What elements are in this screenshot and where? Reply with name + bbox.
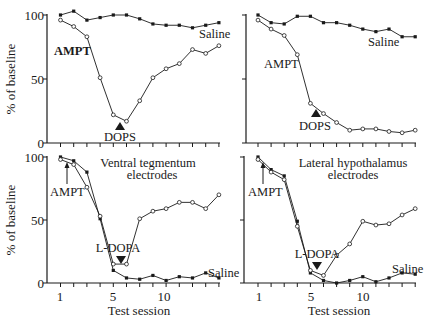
series-top-left-ampt-dops — [59, 18, 221, 123]
data-point-marker — [178, 24, 181, 27]
panel-title-bl-line2: electrodes — [127, 168, 178, 182]
data-point-marker — [98, 76, 102, 80]
label-bl-ldopa: L-DOPA — [96, 241, 141, 255]
figure: % of baseline % of baseline 100 50 0 100… — [0, 0, 428, 319]
data-point-marker — [387, 130, 391, 134]
data-point-marker — [138, 217, 142, 221]
data-point-marker — [191, 200, 195, 204]
data-point-marker — [335, 21, 338, 24]
data-point-marker — [125, 13, 128, 16]
data-point-marker — [309, 101, 313, 105]
data-point-marker — [322, 21, 325, 24]
xtick-br-5: 5 — [308, 289, 315, 304]
data-point-marker — [374, 30, 377, 33]
data-point-marker — [413, 128, 417, 132]
data-point-marker — [72, 159, 75, 162]
data-point-marker — [269, 170, 273, 174]
ytick-bl-0: 0 — [38, 276, 45, 291]
data-point-marker — [282, 34, 286, 38]
xtick-bl-1: 1 — [57, 289, 64, 304]
data-point-marker — [322, 274, 326, 278]
data-point-marker — [151, 209, 155, 213]
data-point-marker — [217, 21, 220, 24]
data-point-marker — [191, 276, 194, 279]
label-tr-ampt: AMPT — [264, 57, 299, 71]
label-br-ldopa: L-DOPA — [295, 247, 340, 261]
x-axis-label-bl: Test session — [108, 303, 171, 318]
data-point-marker — [348, 24, 351, 27]
data-point-marker — [348, 279, 351, 282]
data-point-marker — [335, 121, 339, 125]
data-point-marker — [177, 200, 181, 204]
x-axis-label-br: Test session — [308, 303, 371, 318]
data-point-marker — [59, 158, 63, 162]
data-point-marker — [401, 35, 404, 38]
data-point-marker — [111, 113, 115, 117]
data-point-marker — [361, 275, 364, 278]
data-point-marker — [85, 35, 89, 39]
data-point-marker — [295, 224, 299, 228]
ytick-tl-50: 50 — [31, 72, 44, 87]
data-point-marker — [348, 128, 352, 132]
label-tr-dops: DOPS — [299, 119, 331, 133]
xtick-br-1: 1 — [256, 289, 263, 304]
data-point-marker — [296, 15, 299, 18]
data-point-marker — [295, 53, 299, 57]
data-point-marker — [164, 207, 168, 211]
xtick-bl-10: 10 — [158, 289, 171, 304]
data-point-marker — [414, 35, 417, 38]
data-point-marker — [217, 193, 221, 197]
panel-title-br-line2: electrodes — [328, 168, 379, 182]
data-point-marker — [387, 222, 391, 226]
label-bl-ampt: AMPT — [50, 185, 85, 199]
data-point-marker — [125, 119, 129, 123]
label-tr-saline: Saline — [368, 35, 400, 49]
triangle-down-icon — [116, 256, 126, 264]
data-point-marker — [322, 112, 326, 116]
ytick-tl-0: 0 — [38, 136, 45, 151]
ytick-bl-100: 100 — [25, 150, 45, 165]
data-point-marker — [309, 269, 313, 273]
y-axis-label-top: % of baseline — [3, 43, 18, 114]
data-point-marker — [282, 178, 286, 182]
data-point-marker — [270, 21, 273, 24]
data-point-marker — [138, 278, 141, 281]
ytick-bl-50: 50 — [31, 213, 44, 228]
data-point-marker — [374, 280, 377, 283]
data-point-marker — [322, 279, 325, 282]
data-point-marker — [191, 48, 195, 52]
data-point-marker — [59, 13, 62, 16]
label-tl-ampt: AMPT — [54, 44, 91, 58]
data-point-marker — [361, 127, 365, 131]
data-point-marker — [361, 219, 365, 223]
data-point-marker — [138, 17, 141, 20]
data-point-marker — [269, 27, 273, 31]
triangle-up-icon — [115, 122, 125, 130]
data-point-marker — [256, 18, 260, 22]
label-bl-saline: Saline — [208, 266, 240, 280]
data-point-marker — [165, 279, 168, 282]
data-point-marker — [387, 27, 390, 30]
data-point-marker — [335, 281, 338, 284]
data-point-marker — [151, 22, 154, 25]
data-point-marker — [125, 262, 129, 266]
data-point-marker — [204, 52, 208, 56]
data-point-marker — [85, 171, 88, 174]
data-point-marker — [72, 10, 75, 13]
data-point-marker — [165, 24, 168, 27]
data-point-marker — [374, 223, 378, 227]
data-point-marker — [256, 13, 259, 16]
data-point-marker — [59, 18, 63, 22]
data-point-marker — [72, 163, 76, 167]
data-point-marker — [178, 275, 181, 278]
data-point-marker — [151, 76, 155, 80]
data-point-marker — [256, 158, 260, 162]
data-point-marker — [413, 207, 417, 211]
triangle-down-icon — [312, 262, 322, 270]
data-point-marker — [400, 213, 404, 217]
series-top-left-saline — [59, 10, 221, 30]
data-point-marker — [111, 262, 115, 266]
data-point-marker — [112, 269, 115, 272]
axes-top-left — [43, 14, 220, 147]
data-point-marker — [177, 62, 181, 66]
